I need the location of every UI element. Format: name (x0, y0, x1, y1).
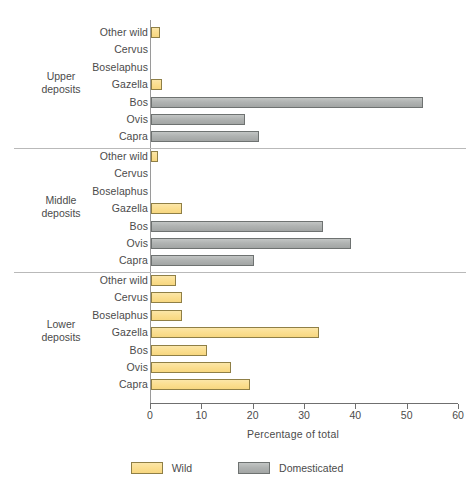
bar-row-label: Bos (130, 96, 148, 108)
legend-item: Domesticated (238, 462, 343, 474)
group-name-line2: deposits (18, 331, 104, 344)
bar (151, 345, 207, 356)
x-axis-title: Percentage of total (0, 428, 474, 440)
bar-row: Bos (0, 218, 474, 236)
bar-row-label: Ovis (127, 113, 148, 125)
bar-row: Other wild (0, 148, 474, 166)
bar-row: Cervus (0, 165, 474, 183)
x-tick-label: 30 (298, 409, 310, 421)
bar (151, 97, 423, 108)
bar-row-label: Other wild (100, 26, 148, 38)
bar (151, 151, 158, 162)
bar-row-label: Ovis (127, 361, 148, 373)
group-name: Upperdeposits (18, 70, 104, 96)
bar-row-label: Capra (119, 378, 148, 390)
group-name-line2: deposits (18, 207, 104, 220)
legend-swatch (131, 462, 163, 474)
group-separator (14, 272, 466, 273)
bar (151, 221, 323, 232)
bar (151, 275, 176, 286)
x-tick-label: 60 (452, 409, 464, 421)
bar (151, 27, 160, 38)
bar-row-label: Ovis (127, 237, 148, 249)
x-tick-label: 0 (147, 409, 153, 421)
bar (151, 238, 351, 249)
group-name-line1: Lower (18, 318, 104, 331)
bar-row-label: Other wild (100, 274, 148, 286)
bar (151, 327, 319, 338)
bar-row-label: Cervus (114, 291, 148, 303)
bar (151, 310, 182, 321)
x-tick-label: 20 (247, 409, 259, 421)
bar-row: Cervus (0, 41, 474, 59)
bar-row: Other wild (0, 272, 474, 290)
bar-row-label: Capra (119, 254, 148, 266)
x-tick-label: 10 (195, 409, 207, 421)
bar-row: Ovis (0, 359, 474, 377)
bar (151, 131, 259, 142)
group-name: Middledeposits (18, 194, 104, 220)
bar-row-label: Bos (130, 344, 148, 356)
group-separator (14, 148, 466, 149)
bar-row: Capra (0, 252, 474, 270)
group-name-line1: Upper (18, 70, 104, 83)
bar-row-label: Bos (130, 220, 148, 232)
bar-row: Capra (0, 376, 474, 394)
legend-item: Wild (131, 462, 192, 474)
group-name: Lowerdeposits (18, 318, 104, 344)
bar-row-label: Gazella (112, 78, 148, 90)
x-tick-label: 50 (401, 409, 413, 421)
bar (151, 292, 182, 303)
bar (151, 114, 245, 125)
bar-row: Bos (0, 342, 474, 360)
chart-legend: WildDomesticated (0, 462, 474, 474)
bar-row-label: Cervus (114, 167, 148, 179)
bar-row: Capra (0, 128, 474, 146)
bar-row: Ovis (0, 235, 474, 253)
x-tick-label: 40 (349, 409, 361, 421)
bar-row-label: Other wild (100, 150, 148, 162)
bar-row-label: Capra (119, 130, 148, 142)
bar-row: Other wild (0, 24, 474, 42)
bar-row: Bos (0, 94, 474, 112)
bar (151, 79, 162, 90)
bar-row-label: Cervus (114, 43, 148, 55)
legend-label: Wild (172, 462, 192, 474)
bar-row-label: Gazella (112, 326, 148, 338)
bar (151, 379, 250, 390)
bar (151, 362, 231, 373)
bar-row: Cervus (0, 289, 474, 307)
bar (151, 203, 182, 214)
grouped-bar-chart: 0102030405060 Other wildCervusBoselaphus… (0, 0, 474, 490)
bar-row-label: Gazella (112, 202, 148, 214)
legend-swatch (238, 462, 270, 474)
bar-row: Ovis (0, 111, 474, 129)
bar (151, 255, 254, 266)
group-name-line1: Middle (18, 194, 104, 207)
group-name-line2: deposits (18, 83, 104, 96)
legend-label: Domesticated (279, 462, 343, 474)
